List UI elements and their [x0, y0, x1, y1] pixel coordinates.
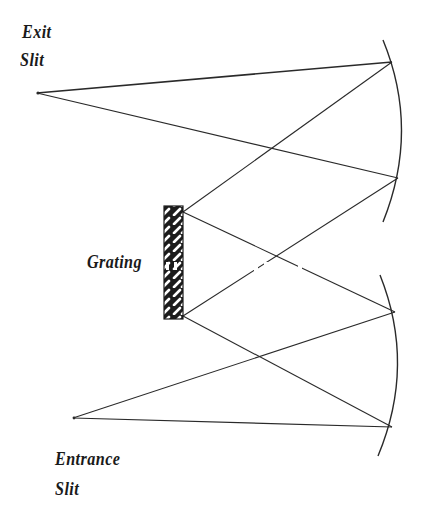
- ray-exit-to-top-mirror-upper: [37, 62, 392, 93]
- diagram-canvas: [0, 0, 426, 512]
- exit-label-line2: Slit: [20, 50, 44, 69]
- exit-slit-point: [36, 91, 39, 94]
- ray-entrance-to-bottom-mirror-lower: [73, 418, 392, 427]
- ray-grating-top-to-top-mirror: [183, 62, 392, 212]
- ray-grating-bottom-to-top-mirror: [183, 178, 398, 316]
- entrance-slit-point: [73, 417, 76, 420]
- entrance-label-line1: Entrance: [55, 449, 120, 468]
- top-mirror: [383, 40, 402, 222]
- bottom-mirror: [378, 275, 398, 456]
- ray-grating-top-to-bottom-mirror: [183, 212, 395, 312]
- monochromator-diagram: Exit Slit Grating Entrance Slit: [0, 0, 426, 512]
- scan-artifacts: [166, 262, 302, 272]
- ray-entrance-to-bottom-mirror-upper: [73, 312, 395, 418]
- grating-label: Grating: [87, 252, 142, 271]
- light-rays: [37, 62, 398, 427]
- exit-label-line1: Exit: [22, 22, 52, 41]
- ray-exit-to-top-mirror-lower: [37, 93, 398, 178]
- entrance-label-line2: Slit: [55, 479, 79, 498]
